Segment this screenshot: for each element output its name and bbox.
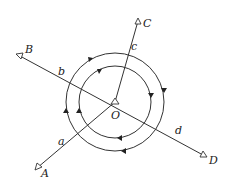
inner-arrow-top-icon — [97, 69, 102, 74]
inner-arrow-bottom-icon — [117, 135, 122, 141]
arrowhead-d-icon — [200, 151, 207, 157]
center-marker-icon — [111, 98, 119, 104]
diagram-svg: O A B C D a b c d — [0, 0, 227, 185]
inner-arrow-right-icon — [148, 93, 154, 98]
line-bd — [20, 56, 203, 155]
label-C: C — [143, 17, 152, 30]
diagram-canvas: O A B C D a b c d — [0, 0, 227, 185]
arrowhead-c-icon — [135, 18, 141, 24]
label-D: D — [208, 154, 218, 167]
label-b: b — [58, 65, 65, 78]
label-d: d — [175, 124, 182, 137]
outer-arrow-bottom-icon — [121, 148, 126, 154]
arrowhead-b-icon — [16, 53, 23, 59]
ray-oa — [37, 102, 115, 168]
label-B: B — [24, 43, 33, 56]
outer-arrow-top-icon — [88, 57, 93, 62]
outer-arrow-left-icon — [63, 108, 69, 113]
label-c: c — [131, 40, 137, 53]
label-A: A — [40, 167, 49, 180]
ray-oc — [115, 21, 138, 102]
label-o: O — [111, 109, 120, 122]
inner-arrow-left-icon — [76, 108, 82, 113]
label-a: a — [58, 135, 65, 148]
outer-arrow-right-icon — [161, 88, 167, 93]
